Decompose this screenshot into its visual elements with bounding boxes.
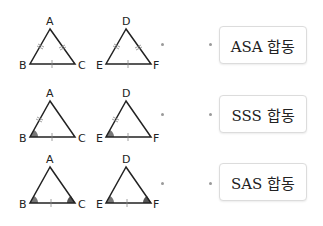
left-match-dot-1[interactable] — [161, 43, 164, 46]
triangle-def: D E F — [96, 87, 159, 145]
svg-text:E: E — [96, 132, 103, 145]
triangle-pair-2: A B C D E F — [0, 75, 170, 150]
svg-text:A: A — [46, 15, 54, 28]
svg-text:B: B — [19, 132, 27, 145]
svg-text:D: D — [122, 153, 130, 166]
right-match-dot-3[interactable] — [209, 182, 212, 185]
svg-text:B: B — [19, 198, 27, 211]
answer-label: ASA 합동 — [231, 35, 296, 56]
triangle-def: D E F — [96, 15, 159, 72]
triangle-abc: A B C — [19, 153, 86, 211]
triangle-pair-1: A B C D E F — [0, 0, 170, 75]
answer-box-sss[interactable]: SSS 합동 — [219, 95, 307, 133]
svg-text:A: A — [46, 87, 54, 100]
svg-text:F: F — [153, 59, 159, 72]
match-row-2: A B C D E F SSS 합동 — [0, 75, 323, 150]
svg-text:C: C — [78, 59, 86, 72]
answer-label: SAS 합동 — [231, 172, 295, 193]
answer-label: SSS 합동 — [231, 104, 294, 125]
left-match-dot-2[interactable] — [161, 113, 164, 116]
triangle-def: D E F — [96, 153, 159, 211]
answer-box-asa[interactable]: ASA 합동 — [219, 26, 307, 64]
svg-text:B: B — [19, 59, 27, 72]
svg-text:F: F — [153, 132, 159, 145]
right-match-dot-1[interactable] — [209, 43, 212, 46]
svg-text:C: C — [78, 198, 86, 211]
svg-text:C: C — [78, 132, 86, 145]
triangle-abc: A B C — [19, 15, 86, 72]
svg-text:A: A — [46, 153, 54, 166]
triangle-abc: A B C — [19, 87, 86, 145]
svg-text:E: E — [96, 198, 103, 211]
match-row-3: A B C D E F SAS 합동 — [0, 150, 323, 225]
svg-text:F: F — [153, 198, 159, 211]
left-match-dot-3[interactable] — [161, 182, 164, 185]
svg-text:D: D — [122, 87, 130, 100]
triangle-pair-3: A B C D E F — [0, 150, 170, 225]
svg-text:E: E — [96, 59, 103, 72]
match-row-1: A B C D E F ASA 합동 — [0, 0, 323, 75]
right-match-dot-2[interactable] — [209, 113, 212, 116]
svg-text:D: D — [122, 15, 130, 28]
answer-box-sas[interactable]: SAS 합동 — [219, 163, 307, 201]
